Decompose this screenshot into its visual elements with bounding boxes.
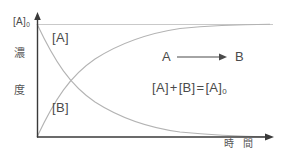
y-axis-title: 濃 度 bbox=[13, 48, 27, 96]
y-axis-arrowhead-icon bbox=[34, 12, 41, 20]
x-axis-title: 時 間 bbox=[224, 139, 256, 149]
y-axis-title-char-1: 濃 bbox=[14, 48, 25, 59]
reaction-scheme: A B bbox=[162, 50, 244, 63]
y-axis-max-label-text: [A] bbox=[13, 16, 26, 27]
x-axis-arrowhead-icon bbox=[265, 133, 274, 140]
plot-canvas bbox=[0, 0, 289, 154]
curve-label-a: [A] bbox=[52, 31, 69, 44]
reaction-product: B bbox=[235, 50, 244, 63]
equation-term-a: [A] bbox=[152, 80, 169, 95]
y-axis-max-label-subscript: 0 bbox=[26, 21, 30, 28]
equation-plus-operator: + bbox=[169, 80, 179, 95]
curve-label-b: [B] bbox=[52, 101, 69, 114]
equation-result-subscript: 0 bbox=[222, 87, 227, 96]
y-axis-max-label: [A]0 bbox=[13, 17, 30, 27]
equation-equals-operator: = bbox=[196, 80, 206, 95]
reaction-reactant: A bbox=[162, 50, 171, 63]
arrow-right-icon bbox=[177, 51, 229, 63]
kinetics-figure: [A]0 濃 度 時 間 [A] [B] A B [A]+[B]=[A]0 bbox=[0, 0, 289, 154]
y-axis-title-char-2: 度 bbox=[14, 85, 25, 96]
equation-term-b: [B] bbox=[179, 80, 196, 95]
mass-balance-equation: [A]+[B]=[A]0 bbox=[152, 81, 227, 94]
equation-result: [A] bbox=[205, 80, 222, 95]
